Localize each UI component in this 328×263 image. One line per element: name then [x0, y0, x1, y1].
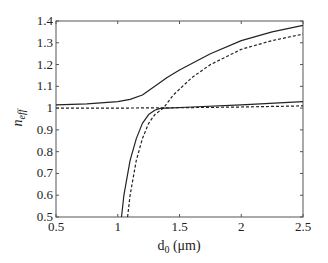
y-tick-label: 0.6: [37, 187, 54, 202]
y-tick-label: 1: [47, 100, 54, 115]
y-axis-label: neff: [10, 108, 27, 126]
x-tick-label: 2: [238, 219, 245, 234]
y-tick-label: 0.7: [37, 165, 54, 180]
y-tick-label: 0.9: [37, 122, 53, 137]
y-tick-label: 1.3: [37, 35, 53, 50]
x-tick-label: 2.5: [295, 219, 311, 234]
y-tick-label: 1.4: [37, 13, 54, 28]
x-tick-label: 1: [115, 219, 122, 234]
y-tick-label: 1.1: [37, 78, 53, 93]
y-tick-label: 1.2: [37, 57, 53, 72]
y-tick-label: 0.5: [37, 209, 53, 224]
chart: 0.511.522.5 0.50.60.70.80.911.11.21.31.4…: [0, 0, 328, 263]
x-tick-label: 1.5: [171, 219, 187, 234]
y-tick-label: 0.8: [37, 144, 53, 159]
plot-area: [56, 21, 303, 217]
x-axis-label: d0 (μm): [157, 238, 201, 255]
